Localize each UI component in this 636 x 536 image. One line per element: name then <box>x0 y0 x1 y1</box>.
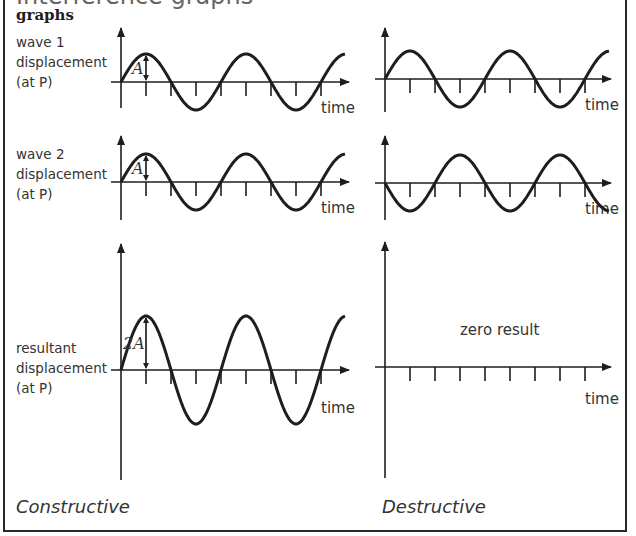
interference-graphs: timetimetimetimetimetimeAA2Azero result <box>0 0 636 536</box>
time-axis-label: time <box>321 99 355 117</box>
time-axis-label: time <box>585 96 619 114</box>
amplitude-label: 2A <box>122 334 145 353</box>
time-axis-label: time <box>585 390 619 408</box>
time-axis-label: time <box>321 399 355 417</box>
amplitude-label: A <box>130 59 144 78</box>
zero-result-label: zero result <box>460 321 539 339</box>
time-axis-label: time <box>321 199 355 217</box>
amplitude-label: A <box>130 159 144 178</box>
